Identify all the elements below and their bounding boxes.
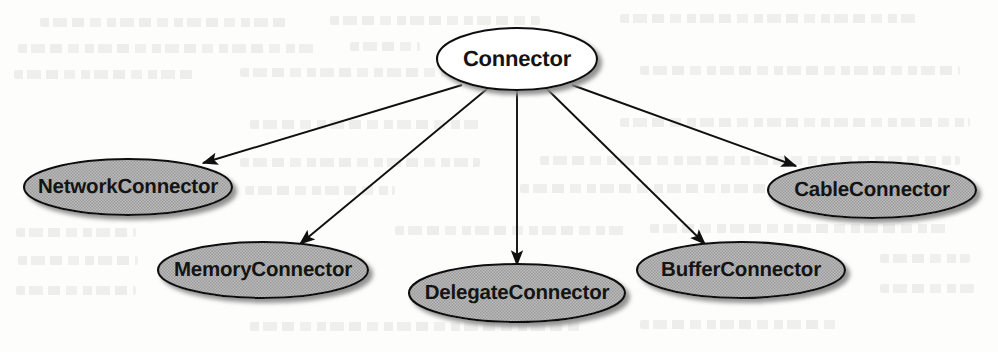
inheritance-arrow-cable-connector [572, 85, 796, 166]
node-ellipse-network-connector[interactable] [24, 159, 232, 215]
node-ellipse-memory-connector[interactable] [158, 242, 368, 298]
inheritance-edges [203, 85, 796, 265]
inheritance-arrow-buffer-connector [547, 89, 705, 244]
connector-hierarchy-diagram: NetworkConnectorMemoryConnectorDelegateC… [0, 0, 998, 352]
inheritance-arrow-memory-connector [300, 89, 487, 244]
node-ellipse-connector[interactable] [437, 28, 597, 90]
node-ellipse-cable-connector[interactable] [768, 162, 976, 218]
node-ellipse-buffer-connector[interactable] [637, 242, 845, 298]
inheritance-arrow-network-connector [203, 85, 462, 163]
diagram-canvas [0, 0, 998, 352]
subclass-nodes [24, 159, 976, 322]
node-ellipse-delegate-connector[interactable] [409, 264, 625, 322]
superclass-node [437, 28, 597, 90]
